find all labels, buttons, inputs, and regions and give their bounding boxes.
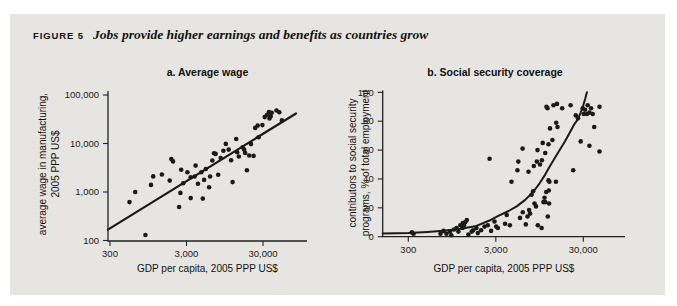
svg-text:3,000: 3,000 <box>484 244 508 255</box>
chart-social-security-coverage: b. Social security coverage contributors… <box>340 60 670 295</box>
svg-text:30,000: 30,000 <box>248 248 277 259</box>
svg-text:60: 60 <box>363 144 374 155</box>
figure-header: FIGURE 5 Jobs provide higher earnings an… <box>33 27 428 43</box>
svg-text:10,000: 10,000 <box>70 138 99 149</box>
chart-b-x-axis-label: GDP per capita, 2005 PPP US$ <box>383 263 625 274</box>
svg-text:0: 0 <box>368 231 373 242</box>
chart-a-x-axis-label: GDP per capita, 2005 PPP US$ <box>108 263 307 274</box>
svg-text:300: 300 <box>400 244 416 255</box>
figure-number-label: FIGURE 5 <box>33 30 84 41</box>
svg-text:30,000: 30,000 <box>569 244 598 255</box>
chart-b-plot-area: 0204060801003003,00030,000 <box>340 60 670 295</box>
svg-text:300: 300 <box>102 248 118 259</box>
svg-text:100: 100 <box>358 87 374 98</box>
figure-title: Jobs provide higher earnings and benefit… <box>93 27 428 43</box>
svg-text:40: 40 <box>363 173 374 184</box>
svg-text:100,000: 100,000 <box>65 89 99 100</box>
figure-panel: FIGURE 5 Jobs provide higher earnings an… <box>10 14 665 295</box>
chart-average-wage: a. Average wage average wage in manufact… <box>30 60 340 295</box>
svg-text:3,000: 3,000 <box>175 248 199 259</box>
svg-text:80: 80 <box>363 115 374 126</box>
chart-a-plot-area: 1001,00010,000100,0003003,00030,000 <box>30 60 340 295</box>
svg-text:100: 100 <box>83 235 99 246</box>
svg-text:1,000: 1,000 <box>75 186 99 197</box>
svg-text:20: 20 <box>363 202 374 213</box>
